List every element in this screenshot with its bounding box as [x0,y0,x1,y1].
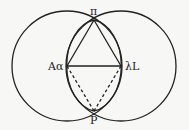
geometry-figure [0,0,189,130]
diagram: π Aα λL P [0,0,189,130]
label-a-alpha: Aα [48,61,63,72]
label-pi: π [90,6,97,17]
label-lambda-l: λL [125,61,139,72]
label-p: P [90,115,97,126]
